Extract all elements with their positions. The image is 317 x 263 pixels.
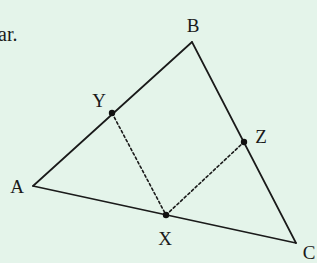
- point-label-z: Z: [255, 127, 267, 146]
- vertex-label-c: C: [303, 243, 316, 262]
- segment-xz: [166, 142, 244, 215]
- point-markers: [109, 110, 247, 218]
- diagram-canvas: ar. A B C X Y Z: [0, 0, 317, 263]
- point-x-marker: [163, 212, 169, 218]
- vertex-label-a: A: [10, 177, 24, 196]
- point-z-marker: [241, 139, 247, 145]
- segment-yx: [112, 113, 166, 215]
- point-label-y: Y: [92, 91, 106, 110]
- dashed-segments: [112, 113, 244, 215]
- vertex-label-b: B: [187, 16, 200, 35]
- point-y-marker: [109, 110, 115, 116]
- triangle-figure: [0, 0, 317, 263]
- point-label-x: X: [158, 229, 172, 248]
